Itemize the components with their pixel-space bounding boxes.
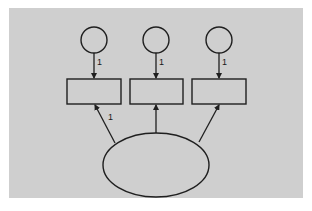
error-path-label-e3: 1: [222, 57, 227, 67]
error-path-label-e1: 1: [97, 57, 102, 67]
path-diagram: 1 1 1 1: [0, 0, 312, 211]
loading-label-x1: 1: [108, 112, 113, 122]
diagram-panel: [9, 8, 303, 198]
error-path-label-e2: 1: [159, 57, 164, 67]
